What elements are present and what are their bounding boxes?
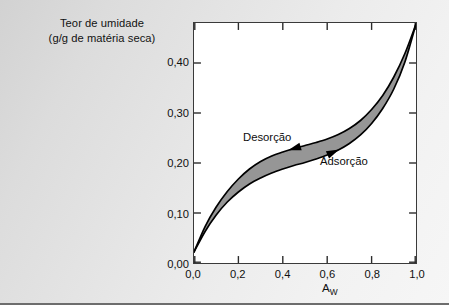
x-tick-label: 0,4 (263, 268, 303, 280)
x-tick-label: 0,8 (352, 268, 392, 280)
desorption-label: Desorção (243, 131, 291, 143)
hysteresis-band (194, 24, 416, 252)
y-tick-label: 0,10 (153, 208, 189, 220)
plot-area (193, 22, 417, 264)
y-tick-label: 0,20 (153, 157, 189, 169)
x-axis-title: AW (322, 281, 338, 297)
x-tick-label: 1,0 (397, 268, 437, 280)
tick-marks (194, 23, 416, 263)
x-tick-label: 0,6 (307, 268, 347, 280)
y-tick-label: 0,30 (153, 107, 189, 119)
desorption-curve (194, 24, 416, 252)
hysteresis-plot (194, 23, 416, 263)
y-tick-label: 0,40 (153, 56, 189, 68)
chart-figure: Teor de umidade (g/g de matéria seca) 0,… (0, 0, 449, 305)
y-axis-tick-labels: 0,000,100,200,300,40 (148, 22, 189, 264)
y-axis-title-line1: Teor de umidade (60, 17, 144, 29)
x-axis-tick-labels: 0,00,20,40,60,81,0 (193, 268, 417, 284)
x-axis-title-text: A (322, 281, 330, 294)
x-tick-label: 0,0 (173, 268, 213, 280)
x-axis-title-subscript: W (330, 287, 338, 297)
desorption-arrow-icon (288, 143, 301, 150)
x-tick-label: 0,2 (218, 268, 258, 280)
adsorption-label: Adsorção (320, 155, 368, 167)
y-axis-title-line2: (g/g de matéria seca) (49, 32, 156, 44)
adsorption-curve (194, 24, 416, 252)
